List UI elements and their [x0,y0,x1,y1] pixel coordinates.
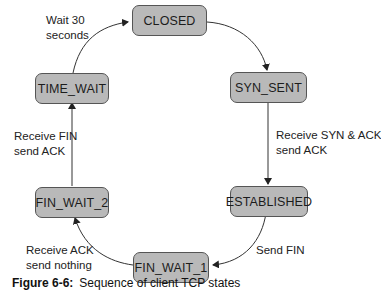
edge-label-receive-ack: Receive ACK send nothing [26,243,94,273]
state-label: SYN_SENT [235,81,302,95]
state-label: ESTABLISHED [226,195,312,209]
edge-label-line: Receive SYN & ACK [276,128,381,143]
figure-number: Figure 6-6: [12,276,73,290]
state-fin-wait-2: FIN_WAIT_2 [35,187,109,218]
state-time-wait: TIME_WAIT [35,73,109,104]
state-syn-sent: SYN_SENT [230,72,307,103]
edge-label-send-fin: Send FIN [256,243,305,258]
state-established: ESTABLISHED [230,186,308,217]
edge-label-line: Wait 30 [46,13,89,28]
state-label: FIN_WAIT_1 [135,261,208,275]
edge-label-line: Receive ACK [26,243,94,258]
edge-label-line: send ACK [276,143,381,158]
state-closed: CLOSED [132,5,207,36]
edge-label-line: send nothing [26,258,94,273]
edge-label-line: Receive FIN [14,129,77,144]
state-label: TIME_WAIT [38,82,107,96]
state-label: FIN_WAIT_2 [36,196,109,210]
figure-caption-text: Sequence of client TCP states [79,276,240,290]
edge-label-wait-30-seconds: Wait 30 seconds [46,13,89,43]
edge-label-receive-syn-ack: Receive SYN & ACK send ACK [276,128,381,158]
figure-caption: Figure 6-6:Sequence of client TCP states [12,276,240,290]
edge-label-line: seconds [46,28,89,43]
edge-label-line: Send FIN [256,243,305,258]
edge-label-receive-fin: Receive FIN send ACK [14,129,77,159]
state-label: CLOSED [143,14,195,28]
edge-closed-to-syn-sent [207,22,267,70]
edge-label-line: send ACK [14,144,77,159]
